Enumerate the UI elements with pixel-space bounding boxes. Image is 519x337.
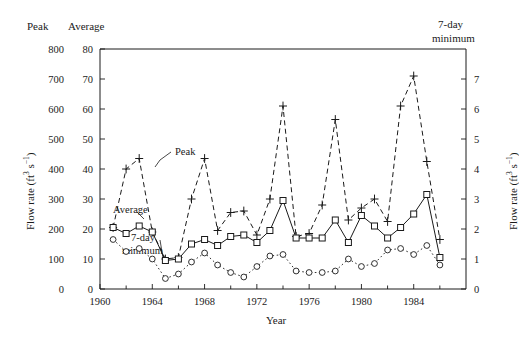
data-point-circle (346, 256, 352, 262)
data-point-circle (424, 243, 430, 249)
data-point-circle (332, 268, 338, 274)
data-point-plus (410, 72, 418, 81)
left-axis-average-label: 30 (83, 194, 94, 205)
data-point-square (110, 225, 116, 231)
data-point-square (267, 228, 273, 234)
data-point-square (424, 192, 430, 198)
data-point-plus (135, 154, 143, 163)
left-axis-average-label: 60 (83, 104, 94, 115)
data-point-plus (423, 157, 431, 166)
data-point-circle (163, 276, 169, 282)
data-point-square (228, 234, 234, 240)
data-point-circle (202, 250, 208, 256)
data-point-plus (331, 115, 339, 124)
x-axis-label: 1968 (194, 296, 215, 307)
data-point-plus (266, 195, 274, 204)
data-point-square (149, 229, 155, 235)
right-axis-label: 1 (474, 254, 479, 265)
x-axis-label: 1964 (142, 296, 164, 307)
data-point-square (358, 213, 364, 219)
right-axis-label: 5 (474, 134, 479, 145)
x-axis-label: 1972 (246, 296, 267, 307)
data-point-plus (188, 195, 196, 204)
data-point-plus (318, 201, 326, 210)
data-point-circle (215, 262, 221, 268)
data-point-plus (201, 154, 209, 163)
data-point-circle (306, 270, 312, 276)
data-point-square (123, 231, 129, 237)
right-axis-label: 0 (474, 284, 479, 295)
right-axis-label: 7 (474, 74, 479, 85)
x-axis-label: 1976 (299, 296, 320, 307)
data-point-circle (228, 270, 234, 276)
data-point-square (372, 223, 378, 229)
peak-leader-line (155, 152, 171, 167)
data-point-circle (293, 268, 299, 274)
data-point-square (319, 235, 325, 241)
data-point-square (136, 223, 142, 229)
left-axis-average-label: 0 (88, 284, 93, 295)
data-point-circle (189, 259, 195, 265)
data-point-square (398, 225, 404, 231)
data-point-square (241, 232, 247, 238)
data-point-circle (319, 270, 325, 276)
data-point-square (202, 237, 208, 243)
data-point-square (280, 198, 286, 204)
data-point-square (215, 243, 221, 249)
data-point-square (332, 217, 338, 223)
left-axis-peak-label: 0 (59, 284, 64, 295)
data-point-square (162, 258, 168, 264)
left-axis-peak-label: 200 (48, 224, 64, 235)
data-point-circle (385, 247, 391, 253)
data-point-circle (254, 264, 260, 270)
series-7-day-minimum (110, 237, 443, 282)
right-axis-label: 6 (474, 104, 479, 115)
data-point-circle (241, 274, 247, 280)
data-point-circle (437, 262, 443, 268)
data-point-square (293, 235, 299, 241)
series-peak (109, 72, 444, 264)
average-leader-line (137, 212, 144, 219)
data-point-circle (359, 264, 365, 270)
data-point-square (175, 256, 181, 262)
left-axis-average-label: 50 (83, 134, 94, 145)
left-axis-average-label: 70 (83, 74, 94, 85)
data-point-square (385, 235, 391, 241)
right-axis-label: 3 (474, 194, 479, 205)
data-point-circle (149, 256, 155, 262)
left-axis-peak-label: 300 (48, 194, 64, 205)
left-axis-peak-label: 700 (48, 74, 64, 85)
data-point-square (411, 211, 417, 217)
data-point-plus (279, 102, 287, 111)
left-axis-peak-label: 400 (48, 164, 64, 175)
left-axis-peak-label: 100 (48, 254, 64, 265)
data-point-circle (123, 249, 129, 255)
data-point-square (345, 240, 351, 246)
x-axis-label: 1984 (403, 296, 425, 307)
left-axis-peak-label: 600 (48, 104, 64, 115)
data-point-circle (280, 252, 286, 258)
right-axis-label: 4 (474, 164, 480, 175)
left-axis-average-label: 80 (83, 44, 94, 55)
left-axis-peak-label: 800 (48, 44, 64, 55)
data-point-square (189, 241, 195, 247)
data-point-circle (110, 237, 116, 243)
left-axis-peak-label: 500 (48, 134, 64, 145)
data-point-plus (384, 217, 392, 226)
left-axis-average-label: 10 (83, 254, 94, 265)
data-point-plus (371, 195, 379, 204)
series-average (110, 192, 443, 264)
left-axis-average-label: 40 (83, 164, 94, 175)
data-point-circle (176, 271, 182, 277)
data-point-square (437, 255, 443, 261)
series-layer (109, 72, 444, 282)
series-line (113, 76, 440, 259)
annotation-leader-lines (137, 152, 171, 258)
left-axis-average-label: 20 (83, 224, 94, 235)
data-point-plus (240, 207, 248, 216)
data-point-plus (397, 102, 405, 111)
x-axis-label: 1980 (351, 296, 372, 307)
data-point-circle (411, 252, 417, 258)
